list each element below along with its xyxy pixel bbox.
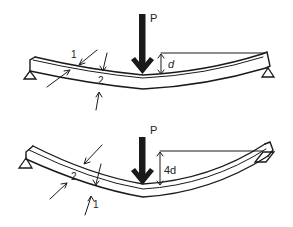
bottom-fiber1-label: 1	[93, 199, 99, 210]
top-fiber2-label: 2	[98, 75, 104, 86]
top-beam-left-end	[30, 57, 35, 71]
top-fiber1-leader-a	[80, 50, 97, 64]
top-deflection-label: d	[168, 58, 175, 70]
bottom-beam-upper-edge	[33, 144, 265, 184]
bottom-left-support-icon	[19, 158, 32, 168]
top-fiber2-leader-a	[103, 53, 107, 70]
top-beam-right-end	[262, 52, 270, 68]
bottom-load-arrow-icon	[131, 137, 154, 185]
bottom-fiber2-label: 2	[71, 171, 77, 182]
bottom-beam-left-end	[26, 146, 33, 159]
bottom-fiber1-leader-b	[85, 197, 91, 215]
top-load-label: P	[150, 12, 157, 24]
bottom-load-label: P	[150, 124, 157, 136]
bottom-fiber2-leader-b	[50, 183, 67, 199]
top-fiber1-label: 1	[71, 49, 77, 60]
beam-deflection-diagram: P d 1 2	[0, 0, 293, 227]
bottom-fiber2-leader-a	[85, 145, 102, 163]
bottom-deflection-label: 4d	[164, 164, 176, 176]
